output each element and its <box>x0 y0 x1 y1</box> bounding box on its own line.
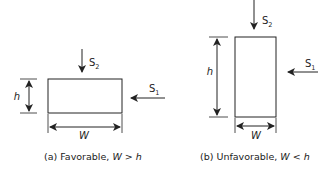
height-label: h <box>14 91 20 102</box>
width-label: W <box>79 130 90 141</box>
stress-s1-label: S1 <box>305 58 316 72</box>
panel-a: h W S2 S1 (a) Favorable, W > h <box>14 49 165 162</box>
panel-b: h W S2 S1 (b) Unfavorable, W < h <box>200 0 318 162</box>
opening-rect-tall <box>235 37 276 117</box>
height-dimension-arrow <box>209 37 228 117</box>
stress-s2-label: S2 <box>262 15 273 29</box>
width-label: W <box>251 130 262 141</box>
caption-a: (a) Favorable, W > h <box>44 151 142 162</box>
opening-rect-wide <box>48 79 122 113</box>
height-dimension-arrow <box>20 79 37 113</box>
caption-b: (b) Unfavorable, W < h <box>200 151 310 162</box>
stress-s2-label: S2 <box>89 57 100 71</box>
height-label: h <box>207 66 213 77</box>
stress-s1-label: S1 <box>149 83 160 97</box>
diagram-canvas: h W S2 S1 (a) Favorable, W > h h <box>0 0 329 172</box>
